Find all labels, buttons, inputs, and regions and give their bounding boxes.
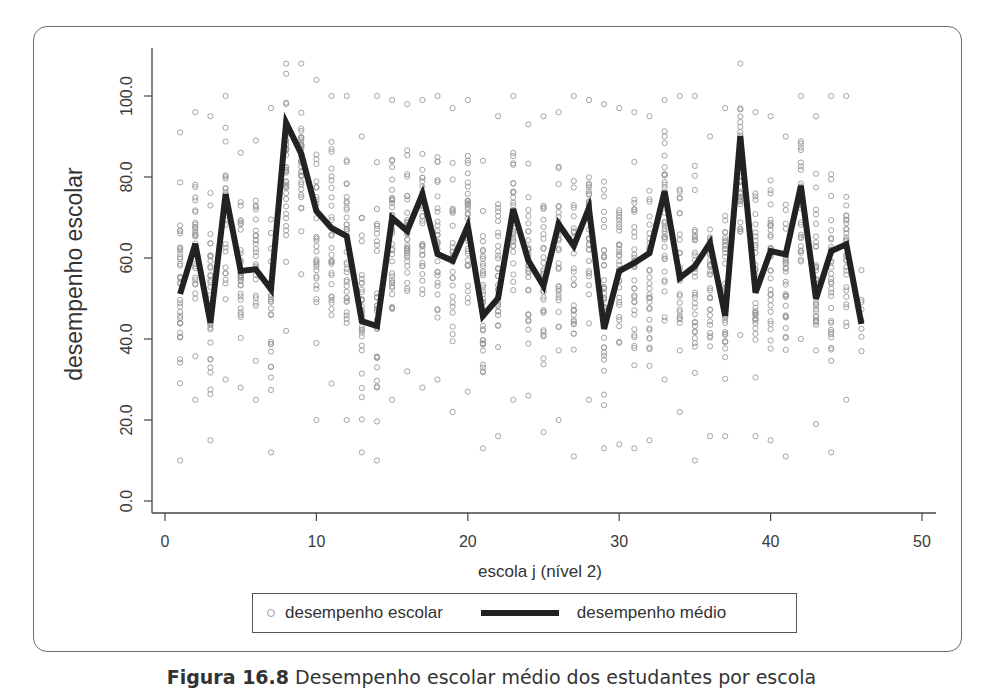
- data-point: [223, 377, 228, 382]
- data-point: [299, 272, 304, 277]
- data-point: [813, 185, 818, 190]
- data-point: [647, 222, 652, 227]
- data-point: [420, 385, 425, 390]
- data-point: [405, 102, 410, 107]
- data-point: [511, 397, 516, 402]
- data-point: [359, 385, 364, 390]
- data-point: [783, 303, 788, 308]
- data-point: [692, 336, 697, 341]
- data-point: [314, 249, 319, 254]
- data-point: [571, 331, 576, 336]
- data-point: [753, 211, 758, 216]
- data-point: [329, 245, 334, 250]
- data-point: [783, 226, 788, 231]
- data-point: [632, 363, 637, 368]
- data-point: [692, 163, 697, 168]
- data-point: [359, 371, 364, 376]
- data-point: [647, 281, 652, 286]
- data-point: [208, 365, 213, 370]
- data-point: [390, 187, 395, 192]
- data-point: [829, 218, 834, 223]
- data-point: [586, 321, 591, 326]
- data-point: [495, 434, 500, 439]
- data-point: [859, 334, 864, 339]
- data-point: [268, 387, 273, 392]
- data-point: [284, 191, 289, 196]
- data-point: [420, 271, 425, 276]
- data-point: [541, 430, 546, 435]
- data-point: [344, 417, 349, 422]
- data-point: [284, 328, 289, 333]
- data-point: [511, 154, 516, 159]
- data-point: [526, 327, 531, 332]
- data-point: [601, 403, 606, 408]
- data-point: [723, 346, 728, 351]
- data-point: [829, 177, 834, 182]
- data-point: [178, 309, 183, 314]
- data-point: [450, 332, 455, 337]
- data-point: [238, 150, 243, 155]
- data-point: [571, 178, 576, 183]
- data-point: [314, 417, 319, 422]
- data-point: [480, 348, 485, 353]
- data-point: [268, 375, 273, 380]
- data-point: [420, 167, 425, 172]
- y-tick-label: 80.0: [118, 161, 135, 192]
- figure-number: Figura 16.8: [167, 666, 289, 688]
- data-point: [586, 292, 591, 297]
- data-point: [526, 207, 531, 212]
- data-point: [359, 134, 364, 139]
- data-point: [208, 190, 213, 195]
- data-point: [723, 434, 728, 439]
- data-point: [314, 283, 319, 288]
- data-point: [329, 282, 334, 287]
- data-point: [526, 238, 531, 243]
- data-point: [738, 61, 743, 66]
- data-point: [586, 97, 591, 102]
- data-point: [390, 97, 395, 102]
- data-point: [541, 362, 546, 367]
- data-point: [374, 248, 379, 253]
- data-point: [268, 450, 273, 455]
- data-point: [435, 315, 440, 320]
- data-point: [253, 228, 258, 233]
- data-point: [798, 336, 803, 341]
- data-point: [450, 177, 455, 182]
- data-point: [178, 297, 183, 302]
- data-point: [601, 209, 606, 214]
- data-point: [374, 419, 379, 424]
- data-point: [314, 77, 319, 82]
- data-point: [193, 110, 198, 115]
- data-point: [223, 297, 228, 302]
- data-point: [692, 312, 697, 317]
- data-point: [723, 250, 728, 255]
- data-point: [284, 71, 289, 76]
- data-point: [329, 93, 334, 98]
- data-point: [844, 194, 849, 199]
- legend: desempenho escolar desempenho médio: [252, 593, 797, 633]
- data-point: [783, 202, 788, 207]
- data-point: [329, 166, 334, 171]
- data-point: [359, 239, 364, 244]
- data-point: [268, 106, 273, 111]
- data-point: [753, 375, 758, 380]
- data-point: [586, 258, 591, 263]
- data-point: [662, 97, 667, 102]
- data-point: [844, 285, 849, 290]
- data-point: [178, 357, 183, 362]
- data-point: [753, 434, 758, 439]
- data-point: [707, 434, 712, 439]
- data-point: [586, 397, 591, 402]
- data-point: [783, 454, 788, 459]
- data-point: [374, 365, 379, 370]
- data-point: [178, 381, 183, 386]
- data-point: [571, 276, 576, 281]
- data-point: [450, 160, 455, 165]
- data-point: [662, 377, 667, 382]
- data-point: [480, 323, 485, 328]
- data-point: [692, 187, 697, 192]
- data-point: [268, 349, 273, 354]
- data-point: [541, 224, 546, 229]
- data-point: [571, 93, 576, 98]
- data-point: [374, 93, 379, 98]
